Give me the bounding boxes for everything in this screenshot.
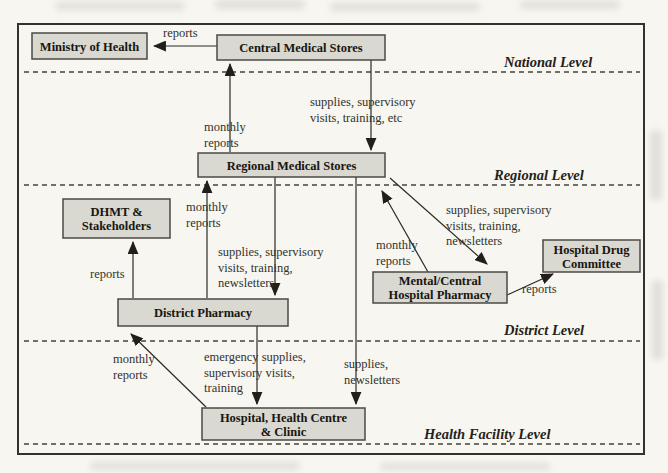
regional-level-label: Regional Level bbox=[493, 167, 584, 183]
node-dhmt-stakeholders: DHMT &Stakeholders bbox=[63, 199, 170, 238]
mental-central-hospital-pharmacy-label: Mental/CentralHospital Pharmacy bbox=[388, 274, 492, 302]
national-level-label: National Level bbox=[503, 54, 592, 70]
diagram-border bbox=[18, 24, 644, 454]
scanned-page: Ministry of HealthCentral Medical Stores… bbox=[0, 0, 668, 473]
label-supplies-rms-dp: supplies, supervisoryvisits, training,ne… bbox=[218, 245, 324, 290]
node-district-pharmacy: District Pharmacy bbox=[118, 299, 288, 326]
node-regional-medical-stores: Regional Medical Stores bbox=[198, 153, 385, 177]
node-ministry-of-health: Ministry of Health bbox=[32, 33, 147, 59]
flow-diagram: Ministry of HealthCentral Medical Stores… bbox=[0, 0, 668, 473]
label-monthly-reports-dp-rms: monthlyreports bbox=[186, 200, 228, 230]
label-monthly-reports-rms-cms: monthlyreports bbox=[204, 120, 246, 150]
label-reports-cms-moh: reports bbox=[163, 26, 198, 40]
central-medical-stores-label: Central Medical Stores bbox=[239, 41, 362, 55]
node-central-medical-stores: Central Medical Stores bbox=[217, 35, 385, 60]
label-supplies-cms-rms: supplies, supervisoryvisits, training, e… bbox=[310, 95, 416, 125]
label-reports-mchp-hdc: reports bbox=[522, 282, 557, 296]
label-reports-dp-dhmt: reports bbox=[90, 267, 125, 281]
hospital-drug-committee-label: Hospital DrugCommittee bbox=[553, 243, 630, 271]
label-supplies-rms-mchp: supplies, supervisoryvisits, training,ne… bbox=[446, 203, 552, 248]
node-hospital-health-centre-clinic: Hospital, Health Centre& Clinic bbox=[202, 408, 365, 440]
node-hospital-drug-committee: Hospital DrugCommittee bbox=[543, 240, 640, 272]
node-mental-central-hospital-pharmacy: Mental/CentralHospital Pharmacy bbox=[373, 272, 507, 303]
district-level-label: District Level bbox=[503, 322, 584, 338]
dhmt-stakeholders-label: DHMT &Stakeholders bbox=[82, 205, 152, 233]
label-supplies-rms-hospital: supplies,newsletters bbox=[344, 357, 400, 387]
regional-medical-stores-label: Regional Medical Stores bbox=[227, 159, 357, 173]
label-monthly-reports-hosp-dp: monthlyreports bbox=[113, 352, 155, 382]
health-facility-level-label: Health Facility Level bbox=[423, 426, 550, 442]
ministry-of-health-label: Ministry of Health bbox=[40, 40, 139, 54]
label-emergency-dp-hospital: emergency supplies,supervisory visits,tr… bbox=[204, 350, 306, 395]
label-monthly-reports-mchp-rms: monthlyreports bbox=[376, 238, 418, 268]
district-pharmacy-label: District Pharmacy bbox=[154, 306, 253, 320]
